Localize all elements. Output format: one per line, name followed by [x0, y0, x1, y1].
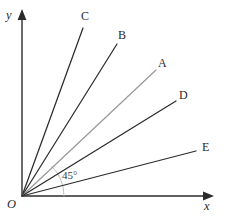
y-axis-arrowhead	[18, 9, 27, 20]
geometry-figure: y x O 45° C B A D E	[0, 0, 226, 223]
ray-e-line	[22, 151, 196, 196]
ray-label-a: A	[158, 57, 167, 69]
ray-label-d: D	[179, 89, 188, 101]
ray-d-line	[22, 101, 176, 196]
ray-label-e: E	[202, 141, 209, 153]
ray-label-b: B	[118, 29, 126, 41]
figure-canvas	[0, 0, 226, 223]
ray-label-c: C	[81, 10, 89, 22]
x-axis-label: x	[204, 200, 210, 213]
angle-label-45: 45°	[62, 170, 77, 181]
origin-label: O	[7, 198, 16, 211]
y-axis-label: y	[6, 9, 12, 22]
